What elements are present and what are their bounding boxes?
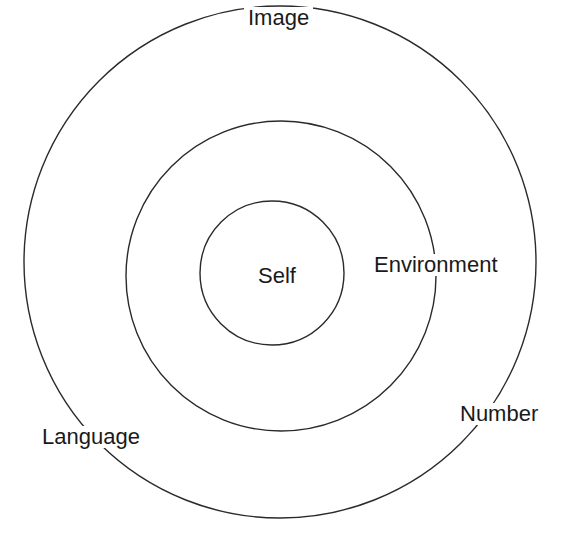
label-environment: Environment <box>370 254 502 276</box>
label-self: Self <box>258 265 296 287</box>
label-image: Image <box>244 7 313 29</box>
label-language: Language <box>38 426 144 448</box>
label-number: Number <box>456 403 542 425</box>
